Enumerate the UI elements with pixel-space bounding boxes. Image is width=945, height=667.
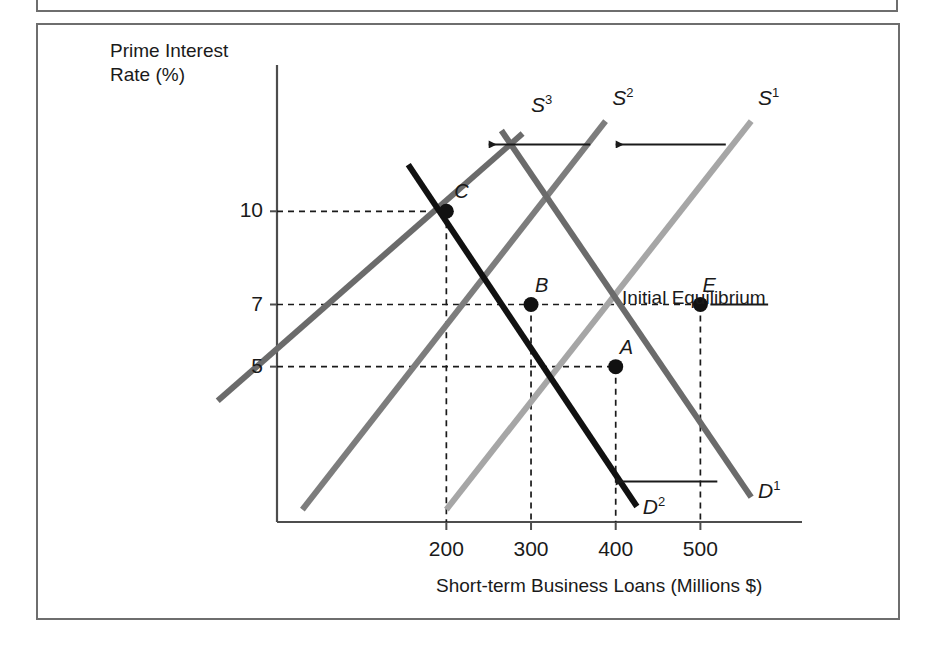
x-tick-label-200: 200: [419, 536, 473, 562]
y-tick-label-5: 5: [233, 353, 263, 379]
curve-label-sup-S3: 3: [545, 92, 552, 107]
y-tick-label-10: 10: [233, 197, 263, 223]
curve-label-sup-D1: 1: [773, 478, 780, 493]
curve-label-D1: D1: [758, 478, 780, 504]
initial-equilibrium-annotation: Initial Equilibrium: [622, 286, 766, 310]
x-tick-label-500: 500: [673, 536, 727, 562]
curve-label-D2: D2: [643, 494, 665, 520]
y-tick-label-7: 7: [233, 291, 263, 317]
preceding-figure-box-fragment: [36, 0, 898, 12]
curve-label-S1: S1: [758, 85, 779, 111]
x-tick-label-300: 300: [504, 536, 558, 562]
curve-label-sup-S1: 1: [772, 85, 779, 100]
equilibrium-point-A[interactable]: [608, 359, 623, 374]
curve-label-sup-S2: 2: [626, 85, 633, 100]
curve-label-base-S1: S: [758, 86, 772, 109]
figure-border-box: Prime Interest Rate (%) Short-term Busin…: [36, 23, 900, 620]
x-tick-label-400: 400: [589, 536, 643, 562]
curve-D1: [501, 131, 751, 498]
curve-label-S2: S2: [612, 85, 633, 111]
supply-demand-chart: [38, 25, 902, 622]
curve-label-base-S3: S: [531, 93, 545, 116]
curve-label-base-D2: D: [643, 495, 658, 518]
figure-page: Prime Interest Rate (%) Short-term Busin…: [0, 0, 945, 667]
curve-label-S3: S3: [531, 92, 552, 118]
point-label-B: B: [535, 273, 548, 298]
curve-label-base-S2: S: [612, 86, 626, 109]
point-label-E: E: [702, 273, 715, 298]
x-axis-title: Short-term Business Loans (Millions $): [436, 574, 762, 598]
y-axis-title-line1: Prime Interest: [110, 39, 228, 63]
equilibrium-point-C[interactable]: [439, 204, 454, 219]
point-label-C: C: [454, 179, 468, 204]
curve-label-base-D1: D: [758, 479, 773, 502]
y-axis-title-line2: Rate (%): [110, 63, 228, 87]
equilibrium-point-B[interactable]: [524, 297, 539, 312]
curve-label-sup-D2: 2: [658, 494, 665, 509]
point-label-A: A: [620, 335, 633, 360]
y-axis-title: Prime Interest Rate (%): [110, 39, 228, 87]
